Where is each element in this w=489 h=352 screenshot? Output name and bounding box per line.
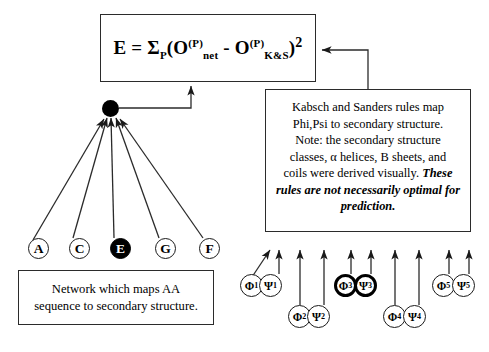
sequence-node-a-label: A — [34, 241, 44, 257]
network-description-text: Network which maps AA sequence to second… — [34, 281, 198, 315]
rules-line-5: coils were derived visually. — [284, 166, 419, 180]
psi-node-3: Ψ3 — [354, 274, 377, 297]
phi-node-3-index: 3 — [348, 281, 352, 290]
psi-node-5-symbol: Ψ — [457, 280, 466, 292]
kabsch-sanders-rules-text: Kabsch and Sanders rules map Phi,Psi to … — [274, 99, 462, 215]
equation-minus-term: - O — [218, 37, 249, 58]
error-equation-text: E = ΣP(O(P)net - O(P)K&S)2 — [113, 35, 302, 61]
psi-node-1-symbol: Ψ — [264, 280, 273, 292]
equation-superscript-2: (P) — [250, 37, 265, 49]
phi-node-2-symbol: Φ — [293, 311, 303, 323]
phi-node-4-symbol: Φ — [388, 311, 398, 323]
sequence-node-c-label: C — [75, 241, 85, 257]
psi-node-3-symbol: Ψ — [359, 280, 368, 292]
rules-line-4: classes, α helices, B sheets, and — [290, 150, 447, 164]
psi-node-5: Ψ5 — [452, 274, 475, 297]
equation-open-term: (O — [167, 37, 189, 58]
sequence-node-f-label: F — [205, 241, 213, 257]
phi-node-3-symbol: Φ — [339, 280, 349, 292]
psi-node-1: Ψ1 — [259, 274, 282, 297]
sequence-node-e-label: E — [116, 241, 125, 257]
sequence-node-f: F — [199, 238, 220, 259]
equation-exponent: 2 — [295, 35, 302, 50]
equation-subscript-ks: K&S — [264, 49, 288, 61]
phi-node-1-index: 1 — [254, 281, 258, 290]
diagram-canvas: E = ΣP(O(P)net - O(P)K&S)2 Kabsch and Sa… — [0, 0, 489, 352]
psi-node-3-index: 3 — [368, 281, 372, 290]
psi-node-2: Ψ2 — [307, 305, 330, 328]
phi-node-1-symbol: Φ — [245, 280, 255, 292]
equation-superscript-1: (P) — [188, 37, 203, 49]
phi-node-5-symbol: Φ — [437, 280, 447, 292]
rules-line-1: Kabsch and Sanders rules map — [292, 100, 444, 114]
phi-node-2-index: 2 — [302, 312, 306, 321]
sequence-node-g-label: G — [160, 241, 171, 257]
equation-lhs: E = — [113, 37, 147, 58]
psi-node-1-index: 1 — [273, 281, 277, 290]
psi-node-4-index: 4 — [417, 312, 421, 321]
equation-sigma-subscript: P — [160, 49, 167, 61]
sequence-node-c: C — [69, 238, 90, 259]
equation-sigma: Σ — [147, 37, 160, 58]
kabsch-sanders-rules-box: Kabsch and Sanders rules map Phi,Psi to … — [265, 89, 471, 232]
psi-node-4: Ψ4 — [403, 305, 426, 328]
network-line-1: Network which maps AA — [52, 282, 180, 296]
rules-line-2: Phi,Psi to secondary structure. — [293, 117, 443, 131]
network-line-2: sequence to secondary structure. — [34, 299, 198, 313]
network-description-box: Network which maps AA sequence to second… — [18, 270, 214, 325]
rules-line-3: Note: the secondary structure — [295, 133, 441, 147]
error-equation-box: E = ΣP(O(P)net - O(P)K&S)2 — [100, 14, 316, 82]
phi-node-5-index: 5 — [446, 281, 450, 290]
sequence-node-e: E — [110, 238, 131, 259]
phi-node-4-index: 4 — [397, 312, 401, 321]
sequence-node-a: A — [28, 238, 49, 259]
network-output-node — [102, 100, 119, 117]
psi-node-5-index: 5 — [466, 281, 470, 290]
psi-node-2-index: 2 — [321, 312, 325, 321]
sequence-node-g: G — [155, 238, 176, 259]
equation-subscript-net: net — [203, 49, 218, 61]
psi-node-4-symbol: Ψ — [408, 311, 417, 323]
psi-node-2-symbol: Ψ — [312, 311, 321, 323]
